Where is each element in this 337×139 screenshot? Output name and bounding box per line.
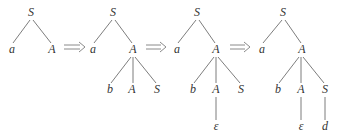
tree-edge (33, 20, 51, 43)
tree-node: S (28, 5, 34, 19)
tree-edge (218, 57, 240, 83)
derives-arrow-icon (230, 42, 250, 52)
diagram-svg: SaASaAbASSaAbASεSaAbASεd (0, 0, 337, 139)
tree-node: S (322, 82, 328, 96)
parse-tree-4: SaAbASεd (259, 5, 329, 133)
tree-edge (13, 20, 30, 43)
parse-tree-3: SaAbASε (174, 5, 244, 133)
tree-edge (279, 57, 299, 83)
tree-edge (94, 20, 112, 43)
tree-node: b (275, 82, 281, 96)
tree-node: d (322, 119, 329, 133)
parse-tree-1: SaA (9, 5, 56, 56)
tree-edge (285, 20, 301, 43)
tree-node: A (127, 82, 136, 96)
tree-node: A (47, 42, 56, 56)
tree-node: A (211, 42, 220, 56)
tree-node: b (190, 82, 196, 96)
tree-node: S (154, 82, 160, 96)
tree-node: a (9, 42, 15, 56)
tree-edge (135, 57, 156, 83)
tree-node: A (128, 42, 137, 56)
tree-node: ε (299, 119, 304, 133)
tree-node: A (296, 82, 305, 96)
tree-node: A (297, 42, 306, 56)
tree-edge (263, 20, 282, 43)
tree-node: A (211, 82, 220, 96)
derivation-diagram: SaASaAbASSaAbASεSaAbASεd (0, 0, 337, 139)
tree-edge (178, 20, 196, 43)
tree-node: S (194, 5, 200, 19)
tree-node: S (280, 5, 286, 19)
tree-node: a (174, 42, 180, 56)
tree-edge (115, 20, 132, 43)
tree-node: a (259, 42, 265, 56)
tree-edge (194, 57, 214, 83)
derives-arrow-icon (146, 42, 166, 52)
tree-edge (199, 20, 215, 43)
tree-edge (111, 57, 131, 83)
derives-arrow-icon (64, 42, 85, 52)
tree-node: ε (214, 119, 219, 133)
tree-node: S (110, 5, 116, 19)
tree-node: a (90, 42, 96, 56)
parse-tree-2: SaAbAS (90, 5, 160, 96)
tree-node: S (238, 82, 244, 96)
tree-node: b (107, 82, 113, 96)
tree-edge (303, 57, 324, 83)
